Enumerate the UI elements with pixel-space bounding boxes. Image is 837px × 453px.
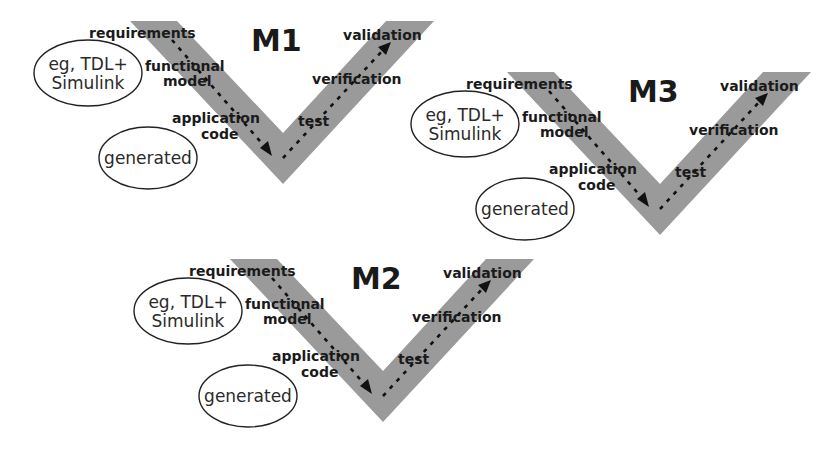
- v-model-diagram: M1 requirements functional model applica…: [0, 0, 837, 453]
- label-functional: functional: [522, 109, 602, 125]
- label-requirements: requirements: [89, 25, 196, 41]
- label-model: model: [540, 124, 589, 140]
- ellipse-text-line2: Simulink: [429, 124, 502, 144]
- label-application: application: [272, 348, 360, 364]
- label-application: application: [549, 161, 637, 177]
- label-test: test: [398, 351, 430, 367]
- label-functional: functional: [245, 296, 325, 312]
- label-requirements: requirements: [466, 76, 573, 92]
- label-validation: validation: [720, 78, 799, 94]
- ellipse-text-line1: eg, TDL+: [48, 54, 127, 74]
- block-m1: M1 requirements functional model applica…: [34, 21, 434, 189]
- label-verification: verification: [412, 309, 502, 325]
- block-m3: M3 requirements functional model applica…: [411, 72, 811, 240]
- ellipse-generated-text: generated: [104, 148, 192, 168]
- block-title: M1: [251, 23, 302, 58]
- label-test: test: [675, 164, 707, 180]
- ellipse-text-line1: eg, TDL+: [148, 292, 227, 312]
- label-test: test: [298, 113, 330, 129]
- label-verification: verification: [689, 122, 779, 138]
- label-validation: validation: [343, 27, 422, 43]
- ellipse-generated-text: generated: [204, 386, 292, 406]
- label-code: code: [578, 177, 615, 193]
- label-requirements: requirements: [189, 263, 296, 279]
- label-application: application: [172, 110, 260, 126]
- ellipse-text-line2: Simulink: [52, 73, 125, 93]
- label-verification: verification: [312, 71, 402, 87]
- ellipse-generated-text: generated: [481, 199, 569, 219]
- ellipse-text-line1: eg, TDL+: [425, 105, 504, 125]
- label-model: model: [263, 311, 312, 327]
- block-title: M2: [351, 261, 402, 296]
- label-code: code: [201, 126, 238, 142]
- block-m2: M2 requirements functional model applica…: [134, 259, 534, 427]
- label-model: model: [163, 73, 212, 89]
- label-code: code: [301, 364, 338, 380]
- block-title: M3: [628, 74, 679, 109]
- label-validation: validation: [443, 265, 522, 281]
- label-functional: functional: [145, 58, 225, 74]
- ellipse-text-line2: Simulink: [152, 311, 225, 331]
